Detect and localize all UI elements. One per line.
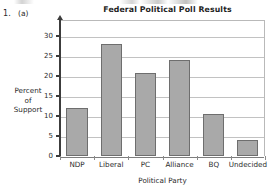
gridline-15 [60,97,264,98]
y-tick-mark-15 [56,95,61,96]
bar-chart-plot-area [60,20,265,156]
bar-undecided [237,140,258,156]
gridline-5 [60,137,264,138]
y-axis-arrow-icon [57,15,63,20]
y-tick-label-0: 0 [33,152,53,160]
y-axis-title-line-2: Support [2,105,54,115]
bar-alliance [169,60,190,156]
y-tick-label-20: 20 [33,72,53,80]
bar-pc [135,73,156,156]
x-tick-label-bq: BQ [208,160,219,169]
y-axis-title-line-1: of [2,96,54,106]
chart-title: Federal Political Poll Results [60,5,275,14]
y-tick-mark-5 [56,135,61,136]
x-tick-mark-1 [128,156,129,160]
y-tick-label-30: 30 [33,32,53,40]
bar-liberal [101,44,122,156]
part-label: (a) [18,9,28,18]
x-tick-label-alliance: Alliance [165,160,193,169]
x-tick-label-liberal: Liberal [99,160,123,169]
y-axis-title-line-0: Percent [2,86,54,96]
x-tick-label-ndp: NDP [69,160,84,169]
x-tick-label-undecided: Undecided [229,160,267,169]
y-tick-label-5: 5 [33,132,53,140]
gridlines [60,21,264,156]
x-tick-mark-0 [94,156,95,160]
gridline-10 [60,117,264,118]
y-tick-mark-10 [56,115,61,116]
item-number: 1. [3,9,11,18]
y-tick-label-25: 25 [33,52,53,60]
y-axis-title: PercentofSupport [2,86,54,115]
gridline-30 [60,37,264,38]
bar-bq [203,114,224,156]
x-tick-label-pc: PC [141,160,150,169]
scan-artifact [0,0,275,4]
y-tick-mark-30 [56,35,61,36]
bar-ndp [66,108,87,156]
y-tick-mark-20 [56,75,61,76]
x-tick-mark-2 [163,156,164,160]
x-axis-title: Political Party [60,176,265,185]
gridline-25 [60,57,264,58]
x-tick-mark-origin [60,156,61,160]
y-tick-mark-25 [56,55,61,56]
x-tick-mark-3 [197,156,198,160]
gridline-20 [60,77,264,78]
